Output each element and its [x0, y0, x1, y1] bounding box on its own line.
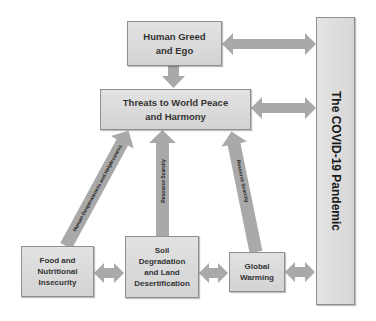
node-label-line: and Ego [143, 44, 205, 58]
double-arrow-warming-covid [285, 262, 315, 282]
node-global-warming: Global Warming [229, 252, 285, 292]
node-label-line: Insecurity [38, 277, 78, 288]
node-label-line: Nutritional [38, 266, 78, 277]
double-arrow-soil-warming [199, 263, 228, 283]
node-covid-19-pandemic: The COVID-19 Pandemic [316, 17, 355, 305]
edge-label-soil-to-threats: Resource Scarcity [160, 146, 166, 216]
node-label-line: Global [240, 261, 274, 272]
node-label-line: Soil [134, 245, 190, 256]
node-label: The COVID-19 Pandemic [329, 91, 343, 231]
node-human-greed-and-ego: Human Greed and Ego [127, 21, 222, 66]
node-label-line: Food and [38, 255, 78, 266]
node-threats-to-world-peace: Threats to World Peace and Harmony [100, 89, 251, 130]
node-label-line: Threats to World Peace [123, 96, 228, 110]
node-label-line: Warming [240, 272, 274, 283]
double-arrow-threats-covid [251, 97, 316, 119]
node-label-line: and Land [134, 267, 190, 278]
node-label-line: and Harmony [123, 110, 228, 124]
node-soil-degradation: Soil Degradation and Land Desertificatio… [125, 236, 199, 298]
node-food-and-nutritional-insecurity: Food and Nutritional Insecurity [21, 246, 94, 297]
arrow-greed-to-threats [162, 66, 185, 88]
double-arrow-food-soil [94, 263, 124, 283]
node-label-line: Human Greed [143, 30, 205, 44]
node-label-line: Desertification [134, 278, 190, 289]
node-label-line: Degradation [134, 256, 190, 267]
double-arrow-greed-covid [222, 33, 316, 55]
